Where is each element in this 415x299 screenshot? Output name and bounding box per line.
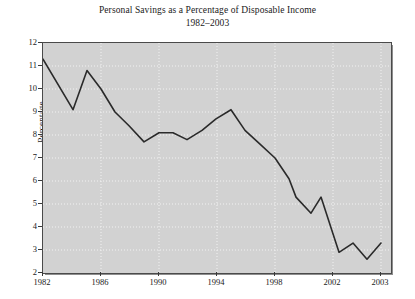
- chart-title-block: Personal Savings as a Percentage of Disp…: [0, 4, 415, 30]
- horizontal-gridlines: [43, 66, 391, 250]
- y-tick-label: 5: [15, 198, 37, 208]
- x-tick-label: 1998: [254, 277, 294, 287]
- y-tick-mark: [38, 42, 42, 43]
- y-tick-mark: [38, 88, 42, 89]
- x-tick-label: 2002: [312, 277, 352, 287]
- y-tick-label: 10: [15, 83, 37, 93]
- x-tick-label: 1982: [22, 277, 62, 287]
- x-tick-mark: [100, 272, 101, 276]
- y-tick-label: 8: [15, 129, 37, 139]
- y-tick-label: 9: [15, 106, 37, 116]
- y-tick-mark: [38, 65, 42, 66]
- chart-subtitle: 1982–2003: [0, 17, 415, 30]
- chart-svg: [43, 43, 391, 273]
- y-tick-mark: [38, 180, 42, 181]
- y-tick-mark: [38, 134, 42, 135]
- x-tick-mark: [158, 272, 159, 276]
- y-tick-label: 6: [15, 175, 37, 185]
- x-tick-label: 2003: [360, 277, 400, 287]
- y-tick-label: 11: [15, 60, 37, 70]
- x-tick-mark: [332, 272, 333, 276]
- x-tick-label: 1994: [196, 277, 236, 287]
- x-tick-mark: [274, 272, 275, 276]
- y-tick-mark: [38, 111, 42, 112]
- chart-page: Personal Savings as a Percentage of Disp…: [0, 0, 415, 299]
- y-tick-label: 4: [15, 221, 37, 231]
- x-tick-mark: [216, 272, 217, 276]
- y-tick-label: 12: [15, 37, 37, 47]
- y-tick-label: 7: [15, 152, 37, 162]
- y-tick-mark: [38, 157, 42, 158]
- x-tick-label: 1990: [138, 277, 178, 287]
- y-tick-label: 3: [15, 244, 37, 254]
- y-tick-mark: [38, 226, 42, 227]
- y-tick-mark: [38, 203, 42, 204]
- x-tick-mark: [42, 272, 43, 276]
- x-tick-label: 1986: [80, 277, 120, 287]
- chart-title: Personal Savings as a Percentage of Disp…: [0, 4, 415, 17]
- plot-area: [42, 42, 392, 274]
- x-tick-mark: [380, 272, 381, 276]
- y-tick-label: 2: [15, 267, 37, 277]
- y-tick-mark: [38, 249, 42, 250]
